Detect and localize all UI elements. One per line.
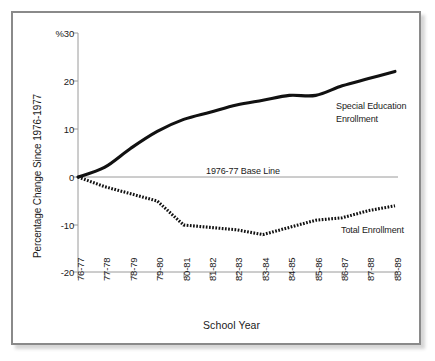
y-tick-label-20: 20 xyxy=(44,76,74,87)
y-tick-label-minus-20: -20 xyxy=(44,267,74,278)
x-tick-label-79-80: 79-80 xyxy=(154,258,165,281)
x-tick-label-84-85: 84-85 xyxy=(286,258,297,281)
x-tick-label-82-83: 82-83 xyxy=(233,258,244,281)
x-tick-label-78-79: 78-79 xyxy=(128,258,139,281)
series-label-special-education-line2: Enrollment xyxy=(336,113,378,126)
series-label-total-enrollment: Total Enrollment xyxy=(341,224,404,237)
x-axis-title: School Year xyxy=(203,319,260,331)
x-tick-label-83-84: 83-84 xyxy=(260,258,271,281)
y-axis-ticks xyxy=(73,33,78,272)
x-tick-label-81-82: 81-82 xyxy=(207,258,218,281)
y-tick-label-0: 0 xyxy=(44,172,74,183)
x-tick-label-77-78: 77-78 xyxy=(101,258,112,281)
x-tick-label-85-86: 85-86 xyxy=(313,258,324,281)
x-tick-label-87-88: 87-88 xyxy=(365,258,376,281)
series-label-special-education-line1: Special Education xyxy=(336,100,406,113)
y-axis-title: Percentage Change Since 1976-1977 xyxy=(32,94,43,258)
baseline-annotation-label: 1976-77 Base Line xyxy=(206,165,280,178)
y-tick-label-30: %30 xyxy=(44,28,74,39)
x-tick-label-80-81: 80-81 xyxy=(181,258,192,281)
chart-figure: %30 20 10 0 -10 -20 Percentage Change Si… xyxy=(0,0,435,361)
y-tick-label-10: 10 xyxy=(44,124,74,135)
x-tick-label-86-87: 86-87 xyxy=(339,258,350,281)
y-tick-label-minus-10: -10 xyxy=(44,220,74,231)
x-tick-label-88-89: 88-89 xyxy=(392,258,403,281)
x-tick-label-76-77: 76-77 xyxy=(75,258,86,281)
